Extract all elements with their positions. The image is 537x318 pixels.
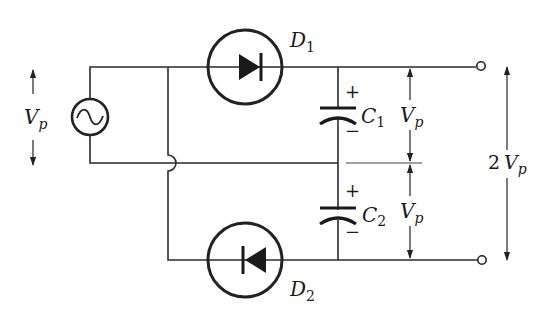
diode-d1-icon xyxy=(239,54,260,80)
c1-voltage-label: Vp xyxy=(400,103,423,130)
c1-minus-sign: − xyxy=(345,120,360,141)
c1-plus-sign: + xyxy=(345,81,360,102)
source-voltage-label: Vp xyxy=(24,105,47,132)
c2-voltage-dimension: Vp xyxy=(400,165,423,258)
c2-minus-sign: − xyxy=(345,221,360,242)
wire-source-mid xyxy=(90,135,338,163)
source-voltage-dimension: Vp xyxy=(24,70,47,165)
output-voltage-dimension: 2Vp xyxy=(488,67,527,260)
diode-d2-label: D2 xyxy=(289,277,315,304)
diode-d1: D1 xyxy=(208,28,315,104)
wires xyxy=(90,67,478,260)
c2-voltage-label: Vp xyxy=(400,199,423,226)
capacitor-c2-label: C2 xyxy=(362,203,386,229)
c2-plus-sign: + xyxy=(345,180,360,201)
capacitor-c1: + − C1 xyxy=(320,81,385,141)
output-voltage-label: 2Vp xyxy=(488,151,527,177)
capacitor-c2: + − C2 xyxy=(320,180,386,242)
output-terminal-top xyxy=(477,62,485,70)
diode-d2-icon xyxy=(245,247,266,273)
ac-source xyxy=(72,99,108,135)
sine-wave-icon xyxy=(77,110,103,125)
capacitor-c1-label: C1 xyxy=(361,104,385,130)
wire-source-top xyxy=(90,67,208,99)
diode-d2: D2 xyxy=(208,223,315,304)
c1-voltage-dimension: Vp xyxy=(400,69,423,161)
diode-d1-label: D1 xyxy=(289,28,315,55)
output-terminal-bottom xyxy=(478,256,486,264)
voltage-doubler-diagram: Vp D1 D2 xyxy=(0,0,537,318)
